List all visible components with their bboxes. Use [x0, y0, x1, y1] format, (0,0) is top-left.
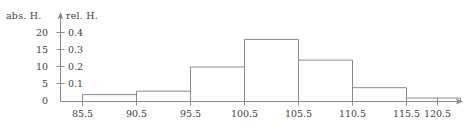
y-tick-label-rel: 0.3: [68, 44, 83, 55]
histogram-bar: [191, 67, 245, 102]
axes-group: [58, 12, 463, 104]
y-tick-label-rel: 0.2: [68, 61, 83, 72]
y-tick-label-abs: 5: [8, 78, 48, 89]
y-tick-label-abs: 20: [8, 27, 48, 38]
y-tick-label-abs: 10: [8, 61, 48, 72]
y-tick-label-rel: 0.1: [68, 78, 83, 89]
histogram-bar: [299, 60, 353, 101]
histogram-bar: [137, 91, 191, 101]
histogram-bar: [83, 95, 137, 102]
histogram-bars: [83, 39, 461, 101]
x-tick-label: 90.5: [110, 108, 164, 119]
x-tick-label: 105.5: [272, 108, 326, 119]
x-tick-label: 100.5: [218, 108, 272, 119]
y-tick-label-abs: 0: [8, 95, 48, 106]
histogram-bar: [353, 88, 407, 102]
histogram-figure: abs. H. rel. H. 20 15 10 5 0 0.4 0.3 0.2…: [0, 0, 471, 133]
x-tick-label: 120.5: [411, 108, 465, 119]
x-tick-label: 85.5: [56, 108, 110, 119]
rel-axis-header: rel. H.: [66, 10, 98, 21]
histogram-bar: [245, 39, 299, 101]
abs-axis-header: abs. H.: [6, 10, 41, 21]
x-tick-label: 110.5: [326, 108, 380, 119]
y-tick-label-rel: 0.4: [68, 27, 83, 38]
histogram-bar: [407, 98, 461, 101]
y-tick-label-abs: 15: [8, 44, 48, 55]
x-tick-label: 95.5: [164, 108, 218, 119]
